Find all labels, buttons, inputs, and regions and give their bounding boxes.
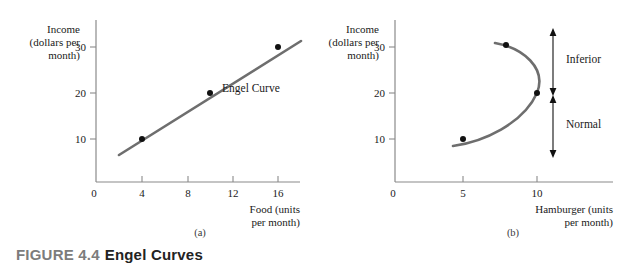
panel-letter-a: (a) xyxy=(194,227,206,239)
data-point-5-10 xyxy=(460,136,466,142)
y-tick-label-10-b: 10 xyxy=(374,133,386,145)
inferior-arrow-head-up xyxy=(550,28,557,36)
x-tick-label-5-b: 5 xyxy=(460,187,466,199)
engel-curve-line-a xyxy=(119,41,301,155)
y-axis-title-line2-b: (dollars per xyxy=(329,36,380,49)
figure-container: 30 20 10 0 4 8 12 16 Income (dollars per… xyxy=(0,0,626,269)
origin-label-b: 0 xyxy=(390,187,396,199)
data-point-16-30 xyxy=(275,44,281,50)
data-point-4-10 xyxy=(139,136,145,142)
x-axis-title-line2-a: per month) xyxy=(251,216,300,229)
backward-bending-curve-b xyxy=(453,43,539,146)
y-axis-title-line1-b: Income xyxy=(346,23,379,35)
y-tick-label-20-b: 20 xyxy=(374,87,386,99)
x-axis-title-line1-a: Food (units xyxy=(250,203,300,216)
x-tick-label-4-a: 4 xyxy=(139,187,145,199)
data-point-7-29 xyxy=(503,42,509,48)
origin-label-a: 0 xyxy=(91,187,97,199)
normal-arrow-head-down xyxy=(550,150,557,158)
normal-arrow-head-up xyxy=(550,95,557,103)
chart-panel-a: 30 20 10 0 4 8 12 16 Income (dollars per… xyxy=(0,0,313,240)
x-axis-title-line1-b: Hamburger (units xyxy=(535,203,613,216)
engel-curve-label: Engel Curve xyxy=(222,82,280,95)
x-tick-label-12-a: 12 xyxy=(228,187,239,199)
x-tick-label-10-b: 10 xyxy=(532,187,544,199)
data-point-10-20 xyxy=(207,90,213,96)
panel-letter-b: (b) xyxy=(507,227,520,239)
data-point-10-20-b xyxy=(534,90,540,96)
y-axis-title-line1-a: Income xyxy=(47,23,80,35)
region-label-inferior: Inferior xyxy=(566,53,601,65)
y-tick-label-20-a: 20 xyxy=(75,87,87,99)
figure-number: FIGURE 4.4 xyxy=(16,246,100,263)
charts-row: 30 20 10 0 4 8 12 16 Income (dollars per… xyxy=(0,0,626,240)
figure-caption: FIGURE 4.4Engel Curves xyxy=(16,246,203,263)
x-axis-title-line2-b: per month) xyxy=(564,216,613,229)
y-axis-title-line2-a: (dollars per xyxy=(30,36,81,49)
y-axis-title-line3-a: month) xyxy=(48,49,80,62)
x-tick-label-16-a: 16 xyxy=(273,187,285,199)
inferior-arrow-head-down xyxy=(550,88,557,96)
region-label-normal: Normal xyxy=(566,118,601,130)
figure-title: Engel Curves xyxy=(105,246,203,263)
y-tick-label-10-a: 10 xyxy=(75,133,87,145)
x-tick-label-8-a: 8 xyxy=(185,187,191,199)
chart-panel-b: 30 20 10 0 5 10 Income (dollars per mont… xyxy=(313,0,626,240)
y-axis-title-line3-b: month) xyxy=(347,49,379,62)
